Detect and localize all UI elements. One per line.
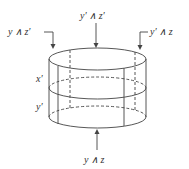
cylinder-diagram: y ∧ z′ y′ ∧ z′ y′ ∧ z x′ y′ y ∧ z: [0, 0, 189, 169]
middle-ellipse-front: [49, 88, 146, 99]
label-bottom: y ∧ z: [83, 154, 104, 165]
label-side-upper: x′: [35, 73, 43, 84]
top-right-leader: [140, 32, 148, 47]
arrowhead-top-right: [138, 45, 143, 50]
arrowhead-top-center: [94, 43, 99, 48]
bottom-ellipse-front: [49, 117, 146, 128]
arrowhead-bottom: [95, 129, 100, 134]
label-top-right: y′ ∧ z: [149, 26, 173, 37]
bottom-ellipse-back: [49, 106, 146, 117]
label-top-left: y ∧ z′: [7, 26, 31, 37]
top-left-leader: [44, 32, 53, 46]
label-side-lower: y′: [35, 101, 43, 112]
top-ellipse: [49, 48, 146, 70]
middle-ellipse-back: [49, 77, 146, 88]
label-top-center: y′ ∧ z′: [79, 10, 106, 21]
arrowhead-top-left: [51, 44, 56, 49]
